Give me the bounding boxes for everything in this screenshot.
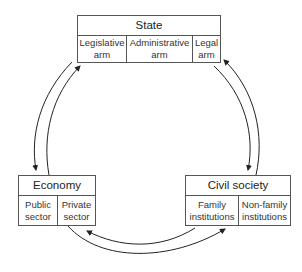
arrow-civil-society-to-state bbox=[224, 60, 259, 175]
arrow-state-to-civil-society bbox=[214, 66, 250, 170]
arrow-economy-to-civil-society bbox=[68, 226, 225, 253]
state-title: State bbox=[78, 16, 220, 36]
state-legislative-arm: Legislativearm bbox=[78, 36, 126, 62]
civil-society-non-family-institutions: Non-familyinstitutions bbox=[238, 196, 290, 225]
arrow-state-to-economy bbox=[34, 62, 72, 170]
state-administrative-arm: Administrativearm bbox=[126, 36, 192, 62]
civil-society-family-institutions: Familyinstitutions bbox=[186, 196, 238, 225]
state-box: State Legislativearm Administrativearm L… bbox=[77, 15, 221, 63]
economy-title: Economy bbox=[19, 176, 95, 196]
economy-box: Economy Publicsector Privatesector bbox=[18, 175, 96, 226]
arrow-economy-to-state bbox=[47, 66, 80, 175]
economy-public-sector: Publicsector bbox=[19, 196, 57, 225]
arrow-civil-society-to-economy bbox=[87, 228, 195, 244]
civil-society-box: Civil society Familyinstitutions Non-fam… bbox=[185, 175, 291, 226]
state-legal-arm: Legalarm bbox=[192, 36, 220, 62]
civil-society-title: Civil society bbox=[186, 176, 290, 196]
economy-private-sector: Privatesector bbox=[57, 196, 95, 225]
